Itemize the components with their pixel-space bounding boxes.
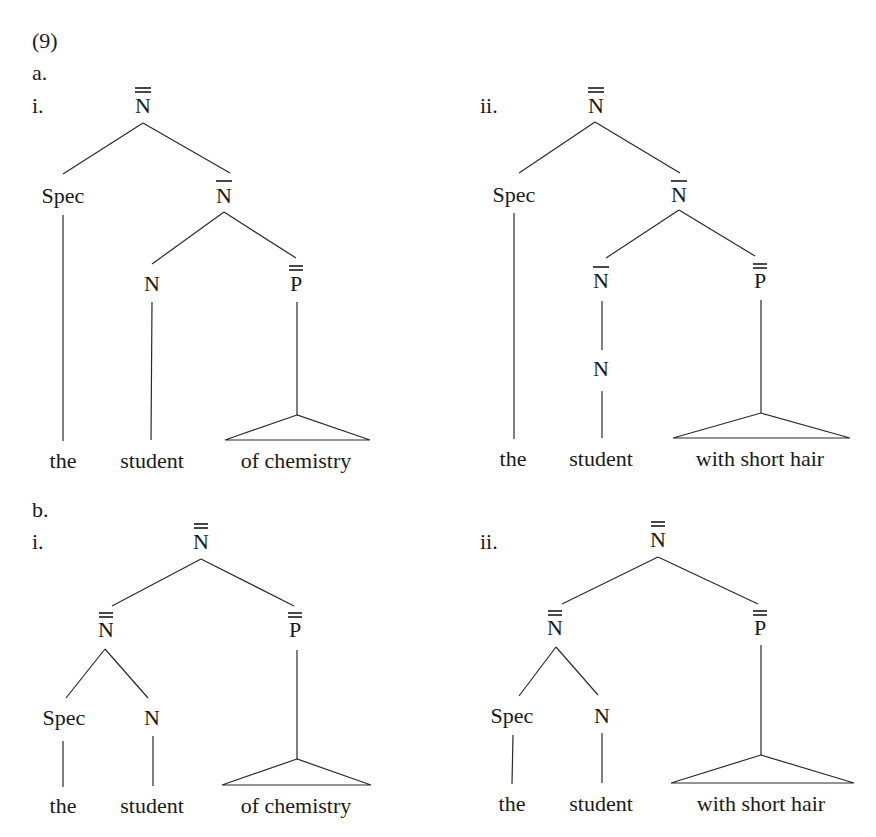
svg-text:N: N [193, 529, 209, 554]
svg-text:N: N [650, 527, 666, 552]
node-b-i-n: N [144, 705, 160, 730]
tree-label-b-ii: ii. [480, 529, 498, 554]
node-b-i-npp: N [98, 613, 114, 642]
svg-text:N: N [588, 93, 604, 118]
svg-text:P: P [289, 617, 301, 642]
node-a-ii-spec: Spec [493, 182, 536, 207]
node-a-i-n: N [144, 271, 160, 296]
word-a-i-pp-phrase: of chemistry [241, 448, 352, 473]
node-b-i-pp: P [288, 613, 302, 642]
syntax-tree-figure: (9) a. i. ii. b. i. ii. N Spec N N P [0, 0, 876, 837]
svg-text:P: P [754, 615, 766, 640]
section-label-b: b. [32, 497, 49, 522]
word-a-ii-the: the [500, 446, 527, 471]
node-a-ii-nbar: N [671, 181, 687, 207]
node-b-ii-npp: N [547, 611, 563, 640]
tree-b-i: N N P Spec N the student of chemistry [43, 524, 371, 818]
svg-text:P: P [754, 268, 766, 293]
word-b-i-student: student [120, 793, 184, 818]
svg-text:N: N [216, 183, 232, 208]
word-a-ii-student: student [569, 446, 633, 471]
word-b-i-pp-phrase: of chemistry [241, 793, 352, 818]
node-b-ii-n: N [594, 703, 610, 728]
node-b-i-root: N [193, 524, 209, 554]
tree-a-i: N Spec N N P the student of chemistry [42, 88, 370, 473]
word-b-ii-the: the [499, 791, 526, 816]
node-a-i-pp: P [289, 266, 303, 296]
tree-a-ii: N Spec N N P N the student with short ha… [493, 88, 850, 471]
svg-text:N: N [135, 93, 151, 118]
node-b-ii-spec: Spec [491, 703, 534, 728]
node-b-i-spec: Spec [43, 705, 86, 730]
svg-text:N: N [98, 617, 114, 642]
word-a-i-student: student [120, 448, 184, 473]
word-b-ii-pp-phrase: with short hair [697, 791, 826, 816]
svg-text:N: N [547, 615, 563, 640]
word-b-ii-student: student [569, 791, 633, 816]
word-b-i-the: the [50, 793, 77, 818]
node-a-i-root: N [135, 88, 151, 118]
example-number: (9) [32, 28, 58, 53]
node-a-ii-pp: P [753, 264, 767, 293]
word-a-i-the: the [50, 448, 77, 473]
tree-b-ii: N N P Spec N the student with short hair [491, 522, 854, 816]
svg-text:N: N [593, 268, 609, 293]
svg-text:P: P [290, 271, 302, 296]
node-a-ii-root: N [588, 88, 604, 118]
tree-label-a-i: i. [32, 93, 44, 118]
node-b-ii-root: N [650, 522, 666, 552]
section-label-a: a. [32, 60, 47, 85]
tree-label-a-ii: ii. [480, 93, 498, 118]
node-a-ii-nbar2: N [593, 267, 609, 293]
node-a-ii-n: N [593, 356, 609, 381]
node-a-i-spec: Spec [42, 183, 85, 208]
node-a-i-nbar: N [216, 181, 232, 208]
node-b-ii-pp: P [753, 611, 767, 640]
svg-text:N: N [671, 182, 687, 207]
tree-label-b-i: i. [32, 529, 44, 554]
word-a-ii-pp-phrase: with short hair [696, 446, 825, 471]
